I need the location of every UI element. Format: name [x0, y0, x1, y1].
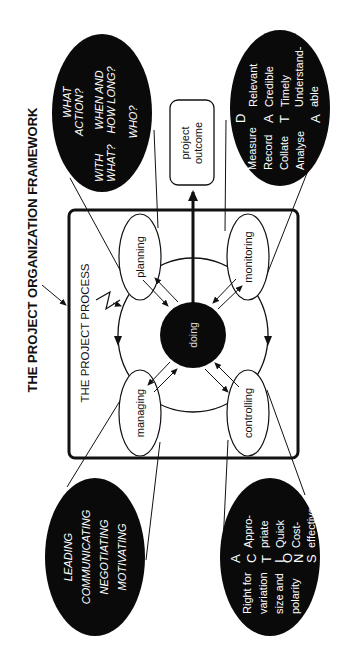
- data-acronym-letter: T: [277, 115, 292, 123]
- data-quality: able: [308, 86, 320, 107]
- actions-left-text: Right for: [241, 572, 253, 614]
- diagram-title: THE PROJECT ORGANIZATION FRAMEWORK: [25, 107, 40, 393]
- controlling-actions-bubble: Right for variation size and polarity A …: [220, 478, 320, 636]
- node-managing-label: managing: [134, 389, 146, 437]
- actions-left-text: size and: [273, 573, 285, 614]
- node-managing: managing: [119, 370, 161, 456]
- question-what-action-2: ACTION?: [73, 87, 85, 137]
- data-acronym-letter: D: [233, 114, 248, 123]
- node-controlling: controlling: [227, 370, 269, 456]
- node-monitoring: monitoring: [227, 214, 269, 300]
- data-quality: Understand-: [293, 46, 305, 107]
- node-doing-label: doing: [187, 322, 199, 348]
- actions-acronym-letter: C: [244, 554, 259, 563]
- actions-left-text: variation: [257, 572, 269, 614]
- break-lightning-arrow: [113, 303, 121, 306]
- question-when-how-long-1: WHEN AND: [93, 70, 105, 130]
- project-outcome-box: project outcome: [170, 100, 214, 185]
- node-controlling-label: controlling: [242, 388, 254, 438]
- data-verb: Measure: [246, 127, 258, 170]
- planning-questions-bubble: WHAT ACTION? WITH WHAT? WHEN AND HOW LON…: [52, 34, 152, 192]
- managing-skills-bubble: LEADING COMMUNICATING NEGOTIATING MOTIVA…: [45, 478, 145, 636]
- skill-item: NEGOTIATING: [98, 519, 110, 594]
- data-acronym-letter: A: [308, 114, 323, 123]
- data-verb: Analyse: [294, 131, 306, 170]
- data-quality: Credible: [263, 66, 275, 107]
- node-planning-label: planning: [134, 236, 146, 278]
- actions-right-text: Appro-: [242, 515, 254, 548]
- loop-arrow-down-right: [264, 336, 272, 346]
- question-who: WHO?: [127, 105, 139, 139]
- data-quality: Timely: [279, 75, 291, 107]
- loop-arrow-up-left: [114, 336, 122, 346]
- data-verb: Record: [262, 135, 274, 170]
- outcome-line-2: outcome: [192, 122, 204, 164]
- actions-right-text: Cost-: [290, 521, 302, 548]
- actions-left-text: polarity: [289, 578, 301, 614]
- actions-right-text: priate: [258, 520, 270, 548]
- skill-item: COMMUNICATING: [80, 509, 92, 604]
- project-process-label: THE PROJECT PROCESS: [79, 263, 91, 402]
- break-lightning-icon: [96, 292, 120, 309]
- actions-right-text: effective: [305, 507, 317, 548]
- skill-item: LEADING: [62, 532, 74, 581]
- question-with-what-2: WHAT?: [105, 143, 117, 182]
- node-planning: planning: [119, 214, 161, 300]
- node-doing: doing: [160, 302, 226, 368]
- data-acronym-letter: A: [261, 114, 276, 123]
- project-organization-framework-diagram: THE PROJECT ORGANIZATION FRAMEWORK WHAT …: [0, 0, 338, 666]
- node-monitoring-label: monitoring: [242, 231, 254, 282]
- actions-acronym-letter: S: [304, 554, 319, 563]
- data-verb: Collate: [278, 136, 290, 170]
- data-quality: Relevant: [247, 64, 259, 107]
- question-when-how-long-2: HOW LONG?: [105, 66, 117, 134]
- actions-right-text: Quick: [274, 519, 286, 548]
- actions-acronym-letter: A: [228, 554, 243, 563]
- monitoring-data-bubble: Measure Record Collate Analyse D A T A R…: [230, 30, 330, 186]
- title-pointer-arrow: [42, 285, 66, 305]
- skill-item: MOTIVATING: [116, 523, 128, 590]
- question-with-what-1: WITH: [93, 154, 105, 182]
- outcome-line-1: project: [179, 126, 191, 159]
- question-what-action-1: WHAT: [61, 85, 73, 118]
